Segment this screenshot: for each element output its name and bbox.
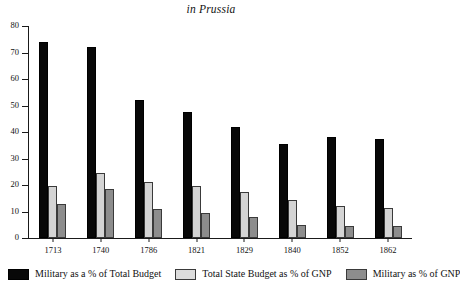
x-axis-line [28,238,412,239]
x-tick-label: 1786 [140,245,157,255]
bar [39,42,48,238]
bar-slot [39,42,66,238]
bar [192,186,201,238]
y-tick-label: 60 [11,73,20,83]
chart-legend: Military as a % of Total BudgetTotal Sta… [8,268,418,280]
y-tick-label: 20 [11,179,20,189]
legend-item[interactable]: Total State Budget as % of GNP [175,268,331,280]
x-tick [148,238,149,242]
chart-title: in Prussia [0,3,422,15]
bar-slot [183,112,210,238]
legend-swatch [175,269,196,280]
x-tick-label: 1840 [284,245,301,255]
bar-slot [231,127,258,238]
bar [105,189,114,238]
bar [144,182,153,238]
bar-slot [375,139,402,238]
y-tick: 20 [22,185,29,186]
x-tick [196,238,197,242]
bar [201,213,210,238]
bar-group: 1821 [173,26,221,238]
y-tick-label: 80 [11,20,20,30]
bar-slot [87,47,114,238]
legend-item[interactable]: Military as a % of Total Budget [8,268,161,280]
bar [135,100,144,238]
y-tick-label: 0 [15,232,19,242]
x-tick-label: 1821 [188,245,205,255]
x-tick [52,238,53,242]
legend-swatch [346,269,367,280]
y-tick-label: 30 [11,153,20,163]
x-tick-label: 1829 [236,245,253,255]
bar [240,192,249,238]
x-tick [340,238,341,242]
bar [345,226,354,238]
x-tick-label: 1740 [92,245,109,255]
bar [87,47,96,238]
bar [393,226,402,238]
bar [279,144,288,238]
y-tick: 0 [22,238,29,239]
bar [288,200,297,238]
bar-group: 1786 [125,26,173,238]
x-tick-label: 1862 [380,245,397,255]
bar [231,127,240,238]
legend-label: Military as % of GNP [373,268,460,280]
legend-item[interactable]: Military as % of GNP [346,268,460,280]
bar [57,204,66,238]
bar-group: 1713 [29,26,77,238]
bar [336,206,345,238]
bar [153,209,162,238]
bar-group: 1829 [221,26,269,238]
bar-group: 1740 [77,26,125,238]
x-tick [292,238,293,242]
bar [249,217,258,238]
legend-label: Total State Budget as % of GNP [202,268,331,280]
bar-slot [327,137,354,238]
plot-area: 01020304050607080 1713174017861821182918… [28,26,412,238]
bar-group: 1852 [316,26,364,238]
x-tick [244,238,245,242]
bar [384,208,393,238]
y-tick: 40 [22,132,29,133]
y-tick: 80 [22,26,29,27]
y-tick: 70 [22,53,29,54]
bar-group: 1862 [364,26,412,238]
bar [297,225,306,238]
y-tick: 50 [22,106,29,107]
bar [183,112,192,238]
y-tick: 60 [22,79,29,80]
y-tick-label: 50 [11,100,20,110]
bar-groups: 17131740178618211829184018521862 [29,26,412,238]
legend-label: Military as a % of Total Budget [35,268,161,280]
x-tick-label: 1852 [332,245,349,255]
x-tick [100,238,101,242]
bar-group: 1840 [268,26,316,238]
bar [96,173,105,238]
bar-slot [135,100,162,238]
bar [375,139,384,238]
legend-swatch [8,269,29,280]
bar [327,137,336,238]
y-tick-label: 40 [11,126,20,136]
y-tick: 30 [22,159,29,160]
bar [48,186,57,238]
y-tick: 10 [22,212,29,213]
x-tick-label: 1713 [44,245,61,255]
x-tick [388,238,389,242]
y-tick-label: 10 [11,206,20,216]
y-tick-label: 70 [11,47,20,57]
bar-slot [279,144,306,238]
